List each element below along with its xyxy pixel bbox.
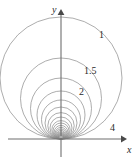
x-axis-label: x	[127, 145, 131, 155]
curve-value-label: 1.5	[84, 66, 97, 76]
figure-container: 11.524 y x	[0, 0, 139, 166]
curve-value-label: 4	[110, 123, 115, 133]
curve-value-label: 1	[99, 30, 104, 40]
y-axis-arrowhead	[58, 9, 65, 15]
diagram-canvas	[0, 0, 139, 166]
y-axis-label: y	[52, 5, 56, 15]
x-axis-arrowhead	[121, 135, 127, 142]
curve-value-label: 2	[79, 87, 84, 97]
